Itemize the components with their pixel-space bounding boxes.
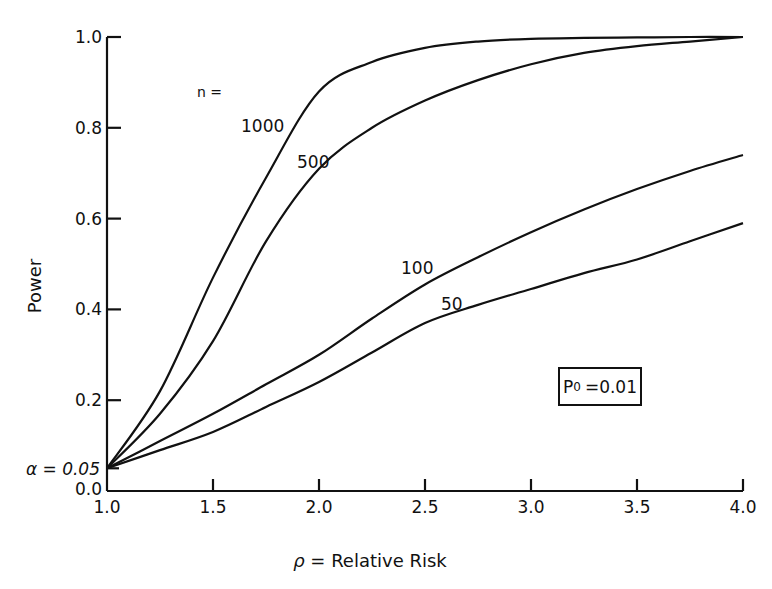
- y-tick-label: 0.2: [75, 392, 102, 409]
- y-axis-label: Power: [26, 259, 44, 313]
- p0-value: =0.01: [585, 377, 637, 397]
- x-axis-label: ρ = Relative Risk: [293, 552, 447, 570]
- x-tick-label: 1.0: [93, 499, 120, 516]
- x-tick-label: 4.0: [729, 499, 756, 516]
- x-tick-label: 2.5: [411, 499, 438, 516]
- curve-label-50: 50: [441, 294, 463, 314]
- x-tick-label: 3.5: [623, 499, 650, 516]
- p0-subscript: 0: [573, 380, 581, 394]
- alpha-annotation: α = 0.05: [26, 461, 100, 478]
- rho-symbol: ρ: [293, 550, 304, 571]
- p0-symbol: P: [563, 377, 573, 397]
- x-tick-label: 3.0: [517, 499, 544, 516]
- y-tick-label: 0.4: [75, 301, 102, 318]
- n-equals-label: n =: [197, 84, 222, 100]
- y-tick-label: 0.0: [75, 481, 102, 498]
- y-tick-label: 0.8: [75, 119, 102, 136]
- power-curves: [107, 37, 743, 468]
- x-tick-label: 2.0: [305, 499, 332, 516]
- curve-n-100: [107, 155, 743, 468]
- curve-label-500: 500: [297, 152, 329, 172]
- x-tick-label: 1.5: [199, 499, 226, 516]
- curve-label-100: 100: [401, 258, 433, 278]
- p0-annotation-box: P0 =0.01: [558, 367, 642, 406]
- x-axis-text: = Relative Risk: [310, 550, 446, 571]
- curve-label-1000: 1000: [241, 116, 284, 136]
- y-tick-label: 1.0: [75, 29, 102, 46]
- y-tick-label: 0.6: [75, 210, 102, 227]
- curve-n-500: [107, 37, 743, 468]
